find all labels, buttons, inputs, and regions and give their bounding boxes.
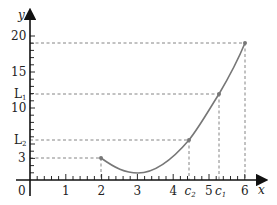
x-label-c2: c2 bbox=[185, 184, 197, 199]
point-start bbox=[99, 156, 103, 160]
dashed-guides bbox=[30, 43, 245, 180]
x-label-5: 5 bbox=[205, 184, 213, 198]
y-label-3: 3 bbox=[18, 151, 26, 165]
function-graph: y x 0 1 2 3 4 5 6 c2 c1 20 15 10 3 L1 L2 bbox=[0, 0, 277, 205]
y-label-20: 20 bbox=[11, 29, 26, 43]
point-end bbox=[243, 41, 247, 45]
y-label-L1: L1 bbox=[14, 87, 26, 102]
point-c1-L1 bbox=[217, 92, 221, 96]
x-label-2: 2 bbox=[98, 184, 106, 198]
marked-points bbox=[99, 41, 247, 160]
x-label-1: 1 bbox=[62, 184, 70, 198]
y-label-10: 10 bbox=[11, 101, 26, 115]
x-axis-label: x bbox=[258, 183, 265, 197]
x-label-6: 6 bbox=[241, 184, 249, 198]
origin-label: 0 bbox=[18, 184, 26, 198]
point-c2-L2 bbox=[187, 138, 191, 142]
x-label-c1: c1 bbox=[215, 184, 226, 199]
y-label-L2: L2 bbox=[14, 133, 26, 148]
y-label-15: 15 bbox=[11, 65, 26, 79]
x-ticks bbox=[37, 174, 245, 180]
x-label-3: 3 bbox=[134, 184, 142, 198]
function-curve bbox=[101, 43, 245, 173]
y-axis-label: y bbox=[17, 8, 25, 22]
x-label-4: 4 bbox=[170, 184, 178, 198]
